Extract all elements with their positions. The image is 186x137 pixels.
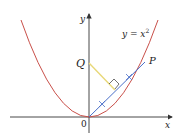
segment-op [89,62,145,117]
label-origin: 0 [81,119,87,129]
label-x-axis: x [165,120,170,130]
label-q: Q [76,57,85,70]
label-p: P [148,55,156,66]
equation-label: y = x2 [121,27,149,39]
diagram-canvas: Q P 0 x y y = x2 [0,0,186,137]
segment-q-perpendicular [89,63,115,90]
label-y-axis: y [79,14,86,24]
right-angle-marker [109,79,119,89]
